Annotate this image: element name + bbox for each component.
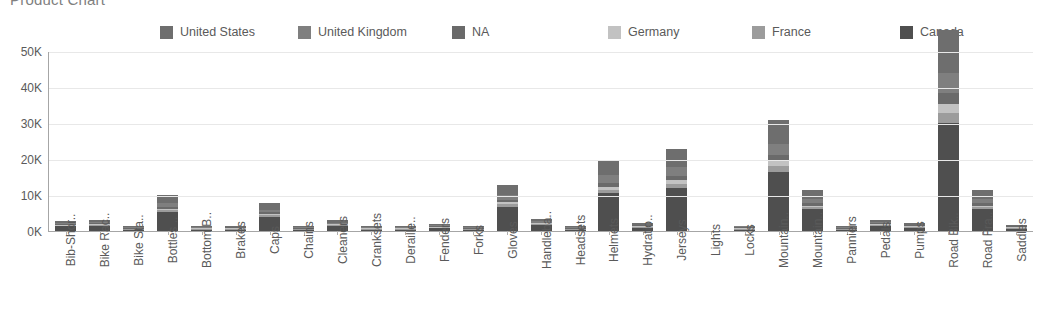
x-axis-label-slot: Saddles: [999, 238, 1033, 316]
bar-column[interactable]: [728, 52, 762, 231]
x-axis-tick-label: Bib-Shor..: [65, 214, 77, 267]
x-axis-tick-label: Cleaners: [337, 216, 349, 264]
bar-column[interactable]: [864, 52, 898, 231]
bar-column[interactable]: [456, 52, 490, 231]
bar-column[interactable]: [796, 52, 830, 231]
bar-column[interactable]: [830, 52, 864, 231]
bar-column[interactable]: [422, 52, 456, 231]
x-axis-label-slot: Panniers: [829, 238, 863, 316]
x-axis-tick-label: Handleba..: [541, 211, 553, 269]
x-axis-tick-label: Panniers: [846, 216, 858, 263]
legend-label: Germany: [628, 25, 679, 39]
bar-segment-na: [938, 93, 959, 105]
legend-swatch-icon: [160, 26, 173, 39]
bar-column[interactable]: [83, 52, 117, 231]
x-axis-tick-label: Bottom B..: [201, 212, 213, 268]
x-axis-tick-label: Brakes: [235, 221, 247, 258]
x-axis-label-slot: Bike Sta..: [116, 238, 150, 316]
bar-column[interactable]: [999, 52, 1033, 231]
legend-item-united-states[interactable]: United States: [160, 25, 255, 39]
bar-column[interactable]: [660, 52, 694, 231]
x-axis-label-slot: Chains: [286, 238, 320, 316]
x-axis-tick-label: Locks: [744, 224, 756, 255]
bar-segment-united-states: [802, 190, 823, 199]
bar-column[interactable]: [151, 52, 185, 231]
x-axis-tick-label: Pedals: [880, 222, 892, 259]
legend-item-na[interactable]: NA: [452, 25, 489, 39]
bar-column[interactable]: [524, 52, 558, 231]
chart-title: Product Chart: [10, 0, 105, 8]
legend-item-united-kingdom[interactable]: United Kingdom: [298, 25, 407, 39]
bar-column[interactable]: [490, 52, 524, 231]
legend-item-france[interactable]: France: [752, 25, 811, 39]
y-axis: 50K40K30K20K10K0K: [0, 52, 46, 232]
y-axis-tick-label: 30K: [21, 117, 42, 131]
bar-column[interactable]: [354, 52, 388, 231]
x-axis-tick-label: Road Bik..: [948, 212, 960, 267]
x-axis-label-slot: Fenders: [422, 238, 456, 316]
x-axis-tick-label: Jerseys: [676, 219, 688, 260]
y-axis-tick-label: 50K: [21, 45, 42, 59]
x-axis-tick-label: Fenders: [439, 218, 451, 262]
plot-area: [48, 52, 1033, 232]
x-axis-tick-label: Helmets: [608, 218, 620, 262]
bar-stack: [938, 30, 959, 231]
bar-column[interactable]: [253, 52, 287, 231]
x-axis-tick-label: Deraille..: [405, 216, 417, 263]
bar-column[interactable]: [287, 52, 321, 231]
bar-segment-united-kingdom: [938, 73, 959, 93]
bar-column[interactable]: [117, 52, 151, 231]
x-axis-label-slot: Hydratio..: [625, 238, 659, 316]
x-axis-label-slot: Headsets: [558, 238, 592, 316]
bar-segment-united-kingdom: [598, 175, 619, 182]
x-axis-label-slot: Mountain..: [761, 238, 795, 316]
y-axis-tick-label: 20K: [21, 153, 42, 167]
x-axis-tick-label: Mountain..: [812, 212, 824, 268]
bar-column[interactable]: [931, 52, 965, 231]
legend-label: NA: [472, 25, 489, 39]
x-axis-tick-label: Pumps: [914, 221, 926, 258]
x-axis: Bib-Shor..Bike Rac..Bike Sta..Bottles ..…: [48, 238, 1033, 316]
x-axis-tick-label: Bike Rac..: [99, 213, 111, 268]
x-axis-label-slot: Handleba..: [524, 238, 558, 316]
x-axis-label-slot: Caps: [252, 238, 286, 316]
x-axis-label-slot: Bib-Shor..: [48, 238, 82, 316]
x-axis-label-slot: Forks: [456, 238, 490, 316]
y-axis-tick-label: 0K: [27, 225, 42, 239]
bar-column[interactable]: [49, 52, 83, 231]
x-axis-label-slot: Locks: [727, 238, 761, 316]
bar-segment-united-states: [972, 190, 993, 199]
bar-column[interactable]: [388, 52, 422, 231]
bar-segment-united-kingdom: [666, 167, 687, 175]
bar-column[interactable]: [762, 52, 796, 231]
bar-column[interactable]: [897, 52, 931, 231]
legend-swatch-icon: [752, 26, 765, 39]
x-axis-tick-label: Bike Sta..: [133, 214, 145, 265]
bars-layer: [49, 52, 1033, 231]
bar-column[interactable]: [965, 52, 999, 231]
bar-column[interactable]: [694, 52, 728, 231]
x-axis-label-slot: Gloves: [490, 238, 524, 316]
x-axis-label-slot: Bottles ..: [150, 238, 184, 316]
bar-segment-france: [938, 113, 959, 123]
x-axis-label-slot: Bike Rac..: [82, 238, 116, 316]
x-axis-label-slot: Helmets: [592, 238, 626, 316]
x-axis-tick-label: Gloves: [507, 221, 519, 258]
legend-swatch-icon: [608, 26, 621, 39]
bar-column[interactable]: [592, 52, 626, 231]
y-axis-tick-label: 40K: [21, 81, 42, 95]
gridline: [49, 124, 1033, 125]
bar-column[interactable]: [185, 52, 219, 231]
bar-column[interactable]: [321, 52, 355, 231]
bar-column[interactable]: [558, 52, 592, 231]
gridline: [49, 52, 1033, 53]
bar-segment-united-states: [497, 185, 518, 195]
legend-swatch-icon: [298, 26, 311, 39]
bar-column[interactable]: [219, 52, 253, 231]
x-axis-tick-label: Hydratio..: [642, 214, 654, 265]
x-axis-tick-label: Saddles: [1016, 218, 1028, 261]
x-axis-tick-label: Bottles ..: [167, 217, 179, 264]
legend-item-germany[interactable]: Germany: [608, 25, 679, 39]
x-axis-label-slot: Deraille..: [388, 238, 422, 316]
bar-column[interactable]: [626, 52, 660, 231]
